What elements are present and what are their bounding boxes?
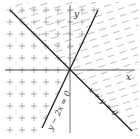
x-axis-label: x	[126, 72, 131, 82]
y-axis-label: y	[73, 9, 80, 19]
inequality-diagram: y x x + y = 0 y − 2x = 0	[0, 0, 140, 139]
